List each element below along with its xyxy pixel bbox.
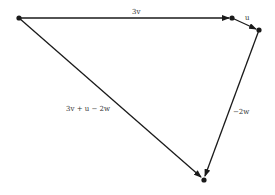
origin-point bbox=[16, 15, 21, 20]
vector-u bbox=[232, 18, 256, 29]
vector-minus-2w bbox=[205, 30, 259, 176]
label-3v: 3v bbox=[132, 8, 140, 16]
end-point bbox=[201, 177, 206, 182]
label-minus-2w: −2w bbox=[233, 108, 249, 116]
label-resultant: 3v + u − 2w bbox=[66, 105, 110, 113]
vector-resultant bbox=[19, 18, 201, 177]
point-after-u bbox=[256, 27, 261, 32]
vector-diagram: 3v u −2w 3v + u − 2w bbox=[0, 0, 275, 195]
point-after-3v bbox=[229, 15, 234, 20]
label-u: u bbox=[245, 14, 250, 22]
